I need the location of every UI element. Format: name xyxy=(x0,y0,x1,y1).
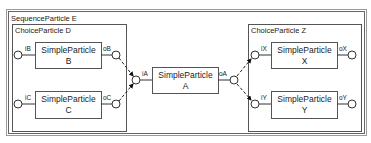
simple-particle-x[interactable]: SimpleParticle X iX oX xyxy=(251,43,356,69)
svg-text:SimpleParticle: SimpleParticle xyxy=(41,94,96,104)
simple-particle-b[interactable]: SimpleParticle B iB oB xyxy=(14,43,120,69)
svg-text:iC: iC xyxy=(25,94,31,101)
svg-text:A: A xyxy=(183,81,189,91)
sequence-label: SequenceParticle E xyxy=(11,14,77,23)
svg-text:SimpleParticle: SimpleParticle xyxy=(277,45,332,55)
port-ib-icon[interactable] xyxy=(14,51,22,59)
svg-text:C: C xyxy=(65,105,71,115)
svg-text:oA: oA xyxy=(219,70,228,77)
svg-text:SimpleParticle: SimpleParticle xyxy=(158,70,213,80)
svg-text:Y: Y xyxy=(302,105,308,115)
svg-text:iB: iB xyxy=(25,45,31,52)
svg-text:oX: oX xyxy=(339,45,348,52)
port-ia-icon[interactable] xyxy=(132,76,140,84)
svg-text:SimpleParticle: SimpleParticle xyxy=(277,94,332,104)
svg-text:B: B xyxy=(66,56,72,66)
svg-text:SimpleParticle: SimpleParticle xyxy=(41,45,96,55)
simple-particle-c[interactable]: SimpleParticle C iC oC xyxy=(14,92,120,119)
port-oy-icon[interactable] xyxy=(348,100,356,108)
svg-text:iX: iX xyxy=(261,45,267,52)
port-oa-icon[interactable] xyxy=(230,76,238,84)
simple-particle-a[interactable]: SimpleParticle A iA oA xyxy=(132,68,238,94)
svg-text:oC: oC xyxy=(103,94,112,101)
svg-text:oY: oY xyxy=(339,94,348,101)
svg-text:oB: oB xyxy=(103,45,111,52)
port-iy-icon[interactable] xyxy=(251,100,259,108)
port-ox-icon[interactable] xyxy=(348,51,356,59)
choice-d-label: ChoiceParticle D xyxy=(15,26,71,35)
port-ob-icon[interactable] xyxy=(112,51,120,59)
simple-particle-y[interactable]: SimpleParticle Y iY oY xyxy=(251,92,356,119)
svg-text:X: X xyxy=(302,56,308,66)
port-oc-icon[interactable] xyxy=(112,100,120,108)
svg-text:iA: iA xyxy=(142,70,148,77)
svg-text:iY: iY xyxy=(261,94,267,101)
choice-z-label: ChoiceParticle Z xyxy=(251,26,306,35)
port-ic-icon[interactable] xyxy=(14,100,22,108)
particle-diagram: SequenceParticle E ChoiceParticle D Choi… xyxy=(0,0,371,143)
port-ix-icon[interactable] xyxy=(251,51,259,59)
